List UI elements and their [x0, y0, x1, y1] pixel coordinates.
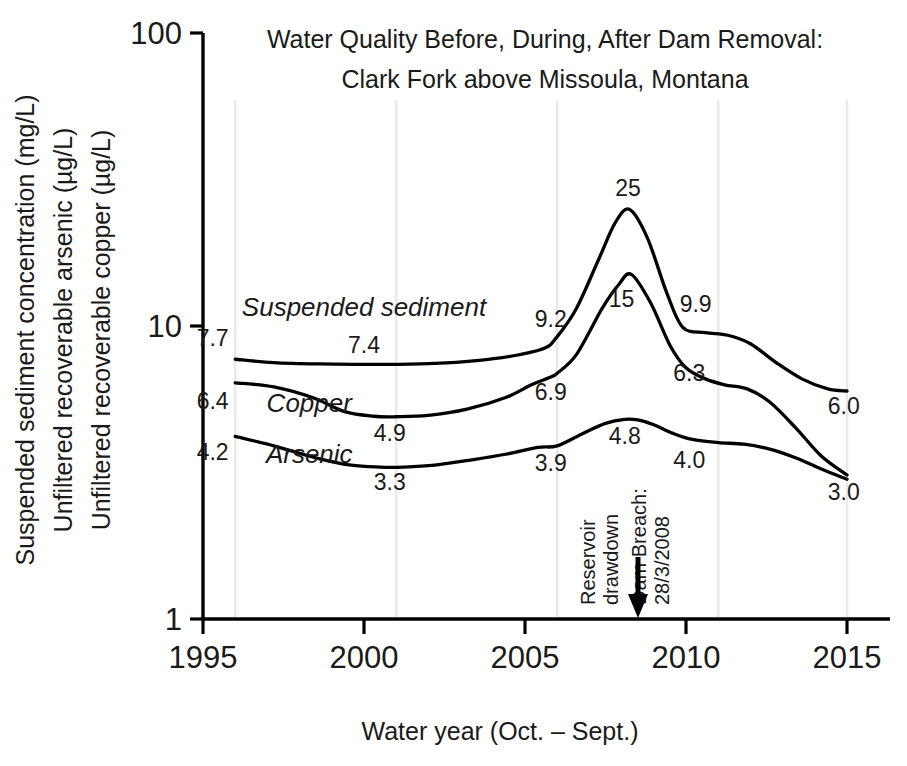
series-label-suspended-sediment: Suspended sediment	[242, 292, 488, 322]
point-label-suspended-sediment-6.0: 6.0	[828, 393, 860, 419]
point-label-copper-6.3: 6.3	[673, 360, 705, 386]
point-label-arsenic-3.9: 3.9	[535, 450, 567, 476]
y-axis-title-line3: Unfiltered recoverable copper (µg/L)	[87, 130, 115, 531]
annotation-reservoir-drawdown: Reservoir drawdown	[577, 514, 622, 605]
point-label-copper-15: 15	[609, 286, 635, 312]
y-axis-title-line2: Unfiltered recoverable arsenic (µg/L)	[49, 128, 77, 533]
y-axis-title-line1: Suspended sediment concentration (mg/L)	[11, 94, 39, 565]
point-label-suspended-sediment-9.9: 9.9	[680, 291, 712, 317]
point-label-arsenic-3.0: 3.0	[828, 479, 860, 505]
x-tick-label-1995: 1995	[169, 640, 238, 675]
x-tick-label-2015: 2015	[813, 640, 882, 675]
chart-background	[0, 0, 907, 766]
chart-svg: 100101 19952000200520102015 Water Qualit…	[0, 0, 907, 766]
point-label-copper-6.9: 6.9	[535, 379, 567, 405]
x-tick-label-2000: 2000	[330, 640, 399, 675]
point-label-suspended-sediment-25: 25	[615, 175, 641, 201]
point-label-suspended-sediment-7.4: 7.4	[348, 332, 380, 358]
x-tick-label-2010: 2010	[652, 640, 721, 675]
y-axis-title: Suspended sediment concentration (mg/L) …	[11, 94, 115, 565]
y-tick-label-100: 100	[130, 16, 182, 51]
y-tick-label-1: 1	[165, 602, 182, 637]
point-label-arsenic-4.2: 4.2	[197, 439, 229, 465]
chart-title: Water Quality Before, During, After Dam …	[267, 25, 823, 53]
point-label-suspended-sediment-7.7: 7.7	[197, 325, 229, 351]
reservoir-drawdown-line2: drawdown	[600, 514, 622, 605]
point-label-arsenic-4.8: 4.8	[609, 423, 641, 449]
point-label-copper-4.9: 4.9	[374, 420, 406, 446]
point-label-copper-6.4: 6.4	[197, 388, 229, 414]
reservoir-drawdown-line1: Reservoir	[577, 519, 599, 605]
chart-subtitle: Clark Fork above Missoula, Montana	[341, 65, 748, 93]
chart-figure: 100101 19952000200520102015 Water Qualit…	[0, 0, 907, 766]
x-tick-label-2005: 2005	[491, 640, 560, 675]
y-tick-label-10: 10	[148, 309, 182, 344]
dam-breach-line2: 28/3/2008	[651, 516, 673, 605]
x-axis-title: Water year (Oct. – Sept.)	[362, 717, 639, 745]
point-label-arsenic-3.3: 3.3	[374, 469, 406, 495]
series-label-arsenic: Arsenic	[264, 439, 353, 469]
point-label-arsenic-4.0: 4.0	[673, 447, 705, 473]
point-label-suspended-sediment-9.2: 9.2	[535, 306, 567, 332]
series-label-copper: Copper	[267, 388, 354, 418]
